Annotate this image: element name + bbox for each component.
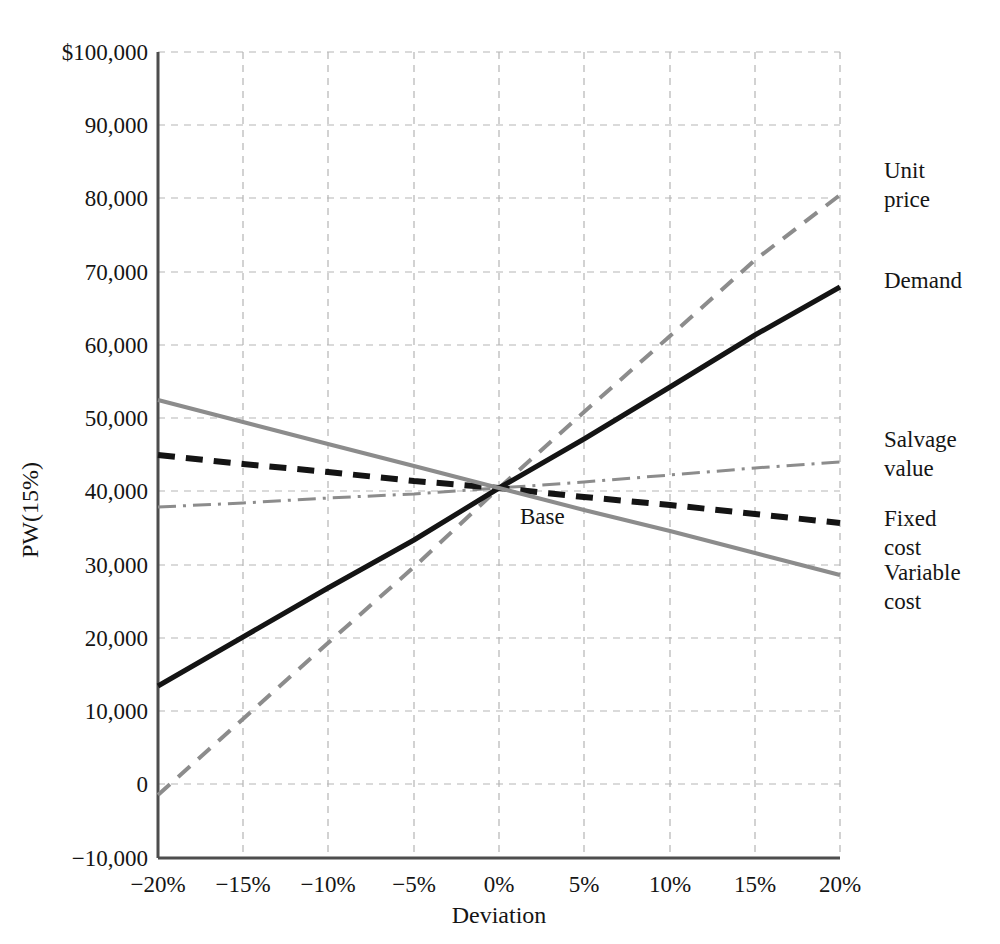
series-label-unit-price: Unit price (884, 158, 930, 212)
series-label-fixed-cost-line2: cost (884, 535, 922, 560)
x-tick-minus20: −20% (130, 872, 185, 897)
series-label-fixed-cost-line1: Fixed (884, 506, 937, 531)
x-tick-5: 5% (569, 872, 600, 897)
x-tick-15: 15% (734, 872, 776, 897)
y-tick-20000: 20,000 (85, 626, 148, 651)
y-tick-60000: 60,000 (85, 333, 148, 358)
y-tick-90000: 90,000 (85, 113, 148, 138)
series-label-variable-cost-line1: Variable (884, 560, 961, 585)
y-axis-title: PW(15%) (17, 462, 43, 558)
x-tick-10: 10% (649, 872, 691, 897)
x-tick-0: 0% (484, 872, 515, 897)
x-tick-minus5: −5% (392, 872, 436, 897)
series-label-salvage-value-line2: value (884, 456, 934, 481)
y-tick-100000: $100,000 (62, 40, 148, 65)
y-tick-40000: 40,000 (85, 479, 148, 504)
y-tick-30000: 30,000 (85, 553, 148, 578)
series-label-demand-line1: Demand (884, 268, 962, 293)
series-label-unit-price-line1: Unit (884, 158, 926, 183)
series-label-demand: Demand (884, 268, 962, 293)
x-tick-minus10: −10% (300, 872, 355, 897)
x-tick-20: 20% (819, 872, 861, 897)
y-tick-10000: 10,000 (85, 699, 148, 724)
series-label-salvage-value: Salvage value (884, 427, 957, 481)
y-tick-50000: 50,000 (85, 406, 148, 431)
x-tick-labels: −20% −15% −10% −5% 0% 5% 10% 15% 20% (130, 872, 861, 897)
base-point-label: Base (520, 504, 565, 529)
y-tick-70000: 70,000 (85, 260, 148, 285)
series-label-variable-cost-line2: cost (884, 589, 922, 614)
x-axis-title: Deviation (452, 902, 547, 928)
series-labels: Unit price Demand Salvage value Fixed co… (884, 158, 962, 614)
y-tick-labels: $100,000 90,000 80,000 70,000 60,000 50,… (62, 40, 148, 871)
y-tick-0: 0 (137, 772, 149, 797)
chart-canvas: $100,000 90,000 80,000 70,000 60,000 50,… (0, 0, 1000, 944)
series-label-salvage-value-line1: Salvage (884, 427, 957, 452)
series-label-fixed-cost: Fixed cost (884, 506, 937, 560)
y-tick-80000: 80,000 (85, 186, 148, 211)
x-tick-minus15: −15% (215, 872, 270, 897)
series-label-variable-cost: Variable cost (884, 560, 961, 614)
series-label-unit-price-line2: price (884, 187, 930, 212)
y-tick-minus10000: −10,000 (72, 846, 148, 871)
sensitivity-chart: $100,000 90,000 80,000 70,000 60,000 50,… (0, 0, 1000, 944)
